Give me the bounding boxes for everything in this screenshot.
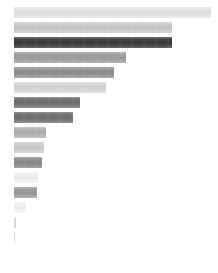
bar[interactable] xyxy=(14,112,73,123)
bar[interactable] xyxy=(14,67,114,78)
bar[interactable] xyxy=(14,217,16,228)
bar[interactable] xyxy=(14,172,38,183)
bar[interactable] xyxy=(14,142,44,153)
bar[interactable] xyxy=(14,7,211,18)
bar[interactable] xyxy=(14,22,172,33)
plot-area xyxy=(0,0,218,273)
bar[interactable] xyxy=(14,157,42,168)
bar[interactable] xyxy=(14,97,80,108)
bar-chart xyxy=(0,0,218,273)
bar[interactable] xyxy=(14,37,172,48)
bar[interactable] xyxy=(14,52,126,63)
bar[interactable] xyxy=(14,202,26,213)
bar[interactable] xyxy=(14,187,37,198)
bar[interactable] xyxy=(14,82,106,93)
bar[interactable] xyxy=(14,127,46,138)
bar[interactable] xyxy=(14,232,15,243)
